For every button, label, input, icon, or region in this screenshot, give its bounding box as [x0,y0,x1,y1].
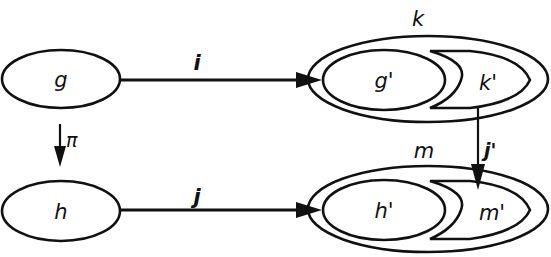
edge-pi-arrowhead-icon [54,146,66,167]
edge-j-prime-arrowhead-icon [471,164,485,190]
node-h-prime-label: h' [374,199,393,223]
node-k-ellipse [308,36,548,122]
node-g: g [2,50,120,108]
node-g-prime-label: g' [374,69,393,93]
edge-j-prime-label: j' [481,139,496,161]
node-k-prime-label: k' [479,71,497,95]
node-m-ellipse [308,166,548,252]
edge-j: j [120,185,322,218]
node-m-prime-label: m' [479,201,505,225]
edge-j-prime: j' [471,108,496,190]
node-h: h [2,181,120,241]
edge-j-label: j [190,185,201,209]
node-g-label: g [54,68,67,92]
node-m: m h' m' [308,139,548,252]
edge-pi: π [54,124,78,167]
edge-i-label: i [193,51,201,75]
node-k: k g' k' [308,7,548,122]
edge-i: i [120,51,322,88]
diagram-canvas: g h k g' k' m h' m' i j π [0,0,551,257]
edge-pi-label: π [66,129,78,151]
node-h-label: h [54,200,67,224]
node-m-label: m [414,139,434,163]
node-k-label: k [412,7,425,31]
